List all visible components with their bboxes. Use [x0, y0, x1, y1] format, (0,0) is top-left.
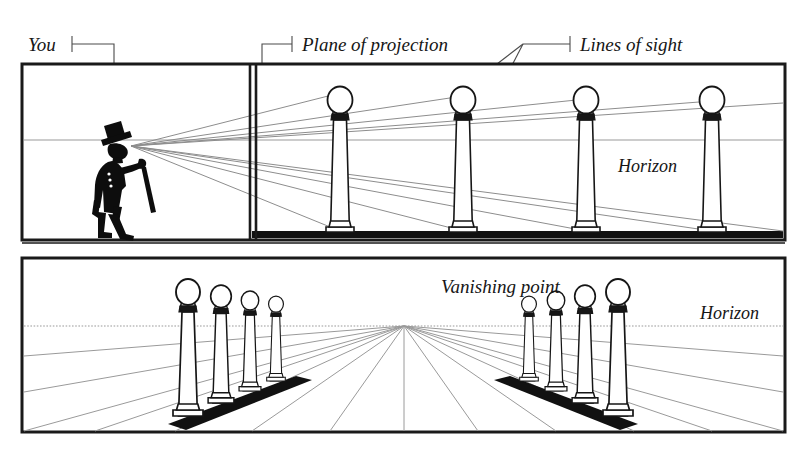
label-vanishing-point: Vanishing point: [441, 276, 560, 297]
label-you: You: [28, 34, 56, 55]
elevation-panel: [22, 64, 785, 243]
label-lines-of-sight: Lines of sight: [579, 34, 683, 55]
elevation-panel-frame: [22, 64, 785, 240]
label-horizon-elevation: Horizon: [617, 156, 677, 176]
label-horizon-perspective: Horizon: [699, 303, 759, 323]
label-plane-of-projection: Plane of projection: [301, 34, 448, 55]
diagram-canvas: You Plane of projection Lines of sight H…: [0, 0, 807, 452]
perspective-diagram: You Plane of projection Lines of sight H…: [0, 0, 807, 452]
perspective-panel: [22, 258, 785, 432]
plane-leader-line: [262, 44, 292, 64]
